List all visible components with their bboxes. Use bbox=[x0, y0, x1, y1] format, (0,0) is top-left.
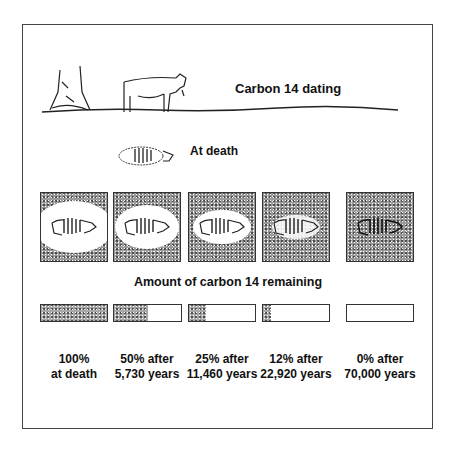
skeleton-cow-icon bbox=[117, 143, 179, 169]
stage-time: at death bbox=[34, 367, 114, 382]
stage-time: 70,000 years bbox=[340, 367, 420, 382]
carbon-fill bbox=[114, 305, 148, 321]
stage-label-5: 0% after70,000 years bbox=[340, 352, 420, 382]
stage-label-2: 50% after5,730 years bbox=[107, 352, 187, 382]
stage-box-1 bbox=[40, 192, 108, 262]
skeleton-cow-icon bbox=[121, 215, 173, 239]
stage-percent: 50% after bbox=[107, 352, 187, 367]
cow-icon bbox=[124, 74, 186, 112]
skeleton-cow-icon bbox=[48, 215, 100, 239]
stage-percent: 25% after bbox=[182, 352, 262, 367]
at-death-label: At death bbox=[190, 144, 238, 158]
stage-label-3: 25% after11,460 years bbox=[182, 352, 262, 382]
stage-box-5 bbox=[346, 192, 414, 262]
carbon-bar-2 bbox=[113, 304, 182, 322]
carbon-bar-4 bbox=[262, 304, 330, 322]
stage-time: 11,460 years bbox=[182, 367, 262, 382]
ground-line bbox=[42, 106, 398, 112]
amount-heading: Amount of carbon 14 remaining bbox=[0, 275, 456, 289]
stage-box-4 bbox=[262, 192, 330, 262]
carbon-fill bbox=[189, 305, 206, 321]
landscape-illustration bbox=[38, 62, 398, 120]
skeleton-cow-icon bbox=[196, 215, 248, 239]
stage-box-2 bbox=[113, 192, 181, 262]
tree-stump-icon bbox=[50, 66, 90, 110]
stage-percent: 0% after bbox=[340, 352, 420, 367]
carbon-fill bbox=[41, 305, 107, 321]
stage-time: 22,920 years bbox=[256, 367, 336, 382]
skeleton-cow-icon bbox=[354, 215, 406, 239]
skeleton-cow-icon bbox=[270, 215, 322, 239]
stage-label-1: 100%at death bbox=[34, 352, 114, 382]
carbon-bar-1 bbox=[40, 304, 108, 322]
carbon-bar-3 bbox=[188, 304, 256, 322]
stage-time: 5,730 years bbox=[107, 367, 187, 382]
stage-percent: 12% after bbox=[256, 352, 336, 367]
diagram-title: Carbon 14 dating bbox=[235, 81, 341, 96]
carbon-bar-5 bbox=[346, 304, 414, 322]
carbon-fill bbox=[263, 305, 271, 321]
stage-label-4: 12% after22,920 years bbox=[256, 352, 336, 382]
stage-percent: 100% bbox=[34, 352, 114, 367]
stage-box-3 bbox=[188, 192, 256, 262]
